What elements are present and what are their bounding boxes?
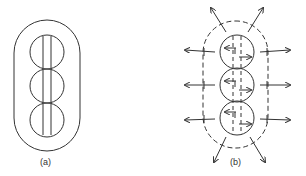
panel-b: [185, 8, 290, 162]
panel-a: [14, 20, 80, 151]
circle-middle: [30, 69, 64, 103]
outward-arrows: [185, 8, 290, 162]
circle-bottom: [30, 103, 64, 137]
circle-middle: [220, 68, 254, 102]
internal-arrows: [225, 48, 251, 124]
diagram-canvas: [0, 0, 306, 176]
solid-enclosure: [14, 20, 80, 151]
circle-top: [30, 35, 64, 69]
panel-a-label: (a): [40, 157, 51, 167]
panel-b-label: (b): [230, 157, 241, 167]
circle-top: [220, 35, 254, 69]
circle-bottom: [220, 101, 254, 135]
